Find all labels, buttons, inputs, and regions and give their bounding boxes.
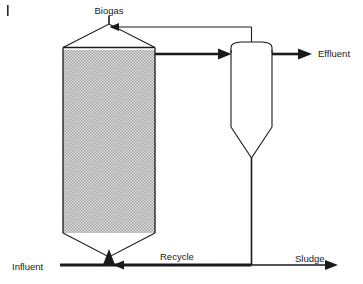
recycle-arrowhead: [113, 261, 124, 270]
reactor-to-settler-line: [155, 49, 232, 60]
label-effluent: Effluent: [318, 48, 350, 59]
label-recycle: Recycle: [160, 251, 194, 262]
label-biogas: Biogas: [94, 5, 123, 16]
sludge-arrowhead: [325, 260, 338, 270]
gas-return-arrowhead: [110, 23, 120, 31]
settler-cone-bottom: [231, 127, 272, 158]
process-flow-diagram: Biogas Effluent Sludge Recycle Influent: [0, 0, 363, 284]
settler-clarifier: [231, 27, 272, 158]
reactor-feed-arrowhead: [103, 249, 116, 266]
settler-dome-top: [231, 42, 272, 53]
diagram-canvas: Biogas Effluent Sludge Recycle Influent: [0, 0, 363, 284]
reactor-media-bed: [63, 50, 155, 233]
reactor-outlet-arrowhead: [218, 49, 232, 60]
label-sludge: Sludge: [295, 253, 325, 264]
anaerobic-reactor: [63, 16, 155, 258]
gas-return-line: [110, 23, 252, 31]
settler-wall: [231, 50, 272, 127]
label-influent: Influent: [12, 261, 44, 272]
page-corner-tick: [7, 5, 9, 16]
effluent-line: [272, 49, 312, 60]
effluent-arrowhead: [298, 49, 312, 60]
